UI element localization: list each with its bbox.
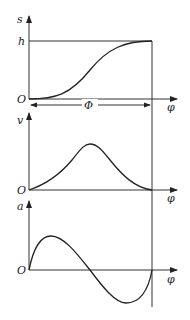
v-axis-label: v xyxy=(17,114,24,127)
h-label: h xyxy=(18,35,25,48)
origin-label-a: O xyxy=(17,264,26,277)
velocity-curve xyxy=(29,144,152,190)
displacement-panel: Φ s h O φ xyxy=(17,13,177,114)
velocity-panel: v O φ xyxy=(17,113,177,205)
s-axis-label: s xyxy=(17,13,23,26)
displacement-curve xyxy=(29,41,152,99)
span-arrow-right-head xyxy=(144,103,151,108)
span-arrow-left-head xyxy=(30,103,37,108)
phi-label-s: φ xyxy=(167,101,175,114)
span-label: Φ xyxy=(84,99,93,112)
phi-label-v: φ xyxy=(167,192,175,205)
phi-label-a: φ xyxy=(167,273,175,286)
motion-diagram: Φ s h O φ v O φ a O φ xyxy=(0,0,190,320)
origin-label-v: O xyxy=(17,184,26,197)
acceleration-panel: a O φ xyxy=(17,200,177,303)
origin-label-s: O xyxy=(17,93,26,106)
a-axis-label: a xyxy=(17,200,24,213)
